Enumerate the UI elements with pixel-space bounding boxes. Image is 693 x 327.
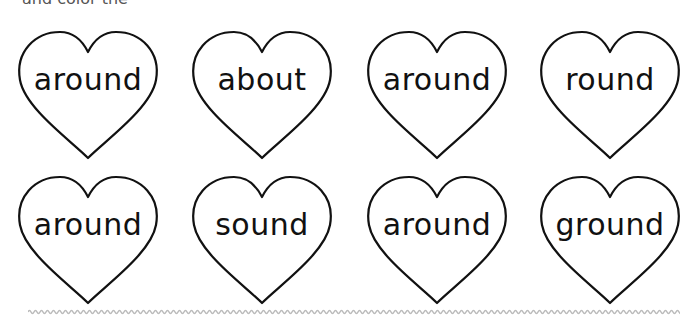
- wavy-divider-line: [28, 306, 680, 318]
- cut-off-instruction-text: and color the: [22, 0, 128, 8]
- heart-card-around: around: [364, 28, 510, 164]
- heart-card-ground: ground: [537, 173, 683, 309]
- heart-card-sound: sound: [189, 173, 335, 309]
- heart-word: ground: [537, 207, 683, 242]
- heart-word: around: [15, 207, 161, 242]
- heart-card-about: about: [189, 28, 335, 164]
- heart-word: sound: [189, 207, 335, 242]
- heart-word: round: [537, 62, 683, 97]
- heart-word: around: [364, 62, 510, 97]
- heart-word: about: [189, 62, 335, 97]
- heart-card-round: round: [537, 28, 683, 164]
- heart-word: around: [364, 207, 510, 242]
- heart-card-around: around: [15, 173, 161, 309]
- heart-card-around: around: [364, 173, 510, 309]
- heart-word: around: [15, 62, 161, 97]
- heart-card-around: around: [15, 28, 161, 164]
